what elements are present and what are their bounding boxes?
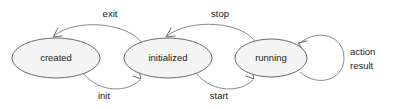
state-machine-diagram: created initialized running exit init st… [0, 0, 395, 109]
state-label-created: created [40, 52, 72, 63]
edge-label-stop: stop [211, 8, 229, 19]
edge-label-action: action [350, 46, 375, 57]
state-label-running: running [255, 52, 287, 63]
edge-label-result: result [350, 60, 374, 71]
transition-path-start [196, 73, 253, 89]
edge-label-exit: exit [103, 8, 118, 19]
diagram-canvas: created initialized running exit init st… [0, 0, 395, 109]
edge-label-start: start [210, 90, 229, 101]
state-label-initialized: initialized [148, 52, 187, 63]
transition-path-init [83, 73, 140, 89]
edge-label-init: init [98, 90, 111, 101]
